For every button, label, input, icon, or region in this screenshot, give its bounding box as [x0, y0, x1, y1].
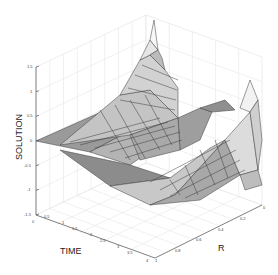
- z-tick: -1.5: [24, 212, 31, 217]
- z-tick: -1: [27, 187, 31, 192]
- x-tick: 3: [117, 244, 119, 249]
- z-tick: 0.5: [27, 113, 33, 118]
- y-tick: 1: [155, 258, 157, 263]
- x-tick: 2: [90, 232, 92, 237]
- x-tick: 2.5: [100, 238, 106, 243]
- x-axis-label: TIME: [60, 246, 82, 256]
- y-tick: 0.4: [218, 227, 224, 232]
- x-tick: 4: [146, 258, 148, 263]
- z-tick: 0: [30, 138, 32, 143]
- x-tick: 1.5: [72, 226, 78, 231]
- x-tick: 1: [62, 220, 64, 225]
- y-tick: 0.2: [240, 216, 246, 221]
- x-tick: 3.5: [127, 250, 133, 255]
- x-tick: 0.5: [44, 214, 50, 219]
- surface-plot: [0, 0, 278, 275]
- z-tick: 1: [30, 89, 32, 94]
- z-axis-label: SOLUTION: [14, 114, 24, 160]
- y-tick: 0.6: [196, 237, 202, 242]
- y-axis-label: R: [218, 243, 225, 253]
- y-tick: 0: [263, 205, 265, 210]
- x-tick: 0: [32, 219, 34, 224]
- z-tick: 1.5: [27, 64, 33, 69]
- z-tick: -0.5: [24, 163, 31, 168]
- y-tick: 0.8: [175, 248, 181, 253]
